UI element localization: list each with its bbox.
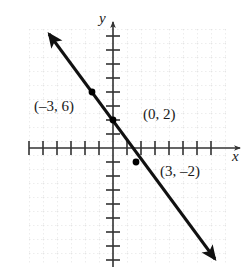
point-marker xyxy=(133,159,140,166)
point-marker xyxy=(110,117,117,124)
coordinate-plane-svg xyxy=(0,0,249,277)
x-axis-label: x xyxy=(232,148,239,165)
point-label-0-2: (0, 2) xyxy=(143,106,176,123)
graph-figure: (–3, 6) (0, 2) (3, –2) y x xyxy=(0,0,249,277)
point-label-3-neg2: (3, –2) xyxy=(160,163,200,180)
point-label-neg3-6: (–3, 6) xyxy=(34,98,74,115)
point-marker xyxy=(89,89,96,96)
y-axis-label: y xyxy=(99,10,106,27)
